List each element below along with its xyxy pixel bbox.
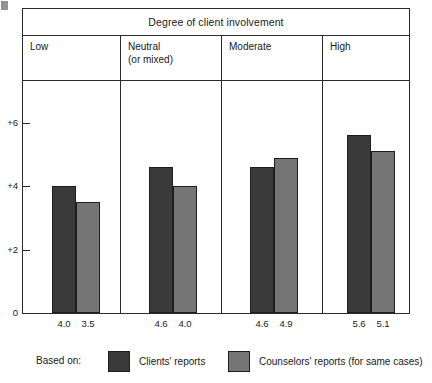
plot-area: 0 +2 +4 +6 4.0 3.5 4.6 4.0 4.6 4.9 5.6 5…: [22, 78, 410, 314]
group-divider-2: [221, 52, 222, 313]
category-label-line1: Moderate: [229, 41, 322, 54]
category-cell-high: High: [323, 36, 409, 80]
y-tick-label: +2: [7, 244, 18, 255]
plot-right-border: [409, 52, 410, 313]
bar-moderate-clients: [250, 167, 274, 313]
value-label: 4.6: [149, 318, 173, 329]
bar-neutral-counselors: [173, 186, 197, 313]
chart-title-row: Degree of client involvement: [23, 9, 409, 36]
bar-moderate-counselors: [274, 158, 298, 313]
bar-high-counselors: [371, 151, 395, 313]
category-header-row: Low Neutral (or mixed) Moderate High: [23, 36, 409, 80]
value-label: 4.9: [274, 318, 298, 329]
bar-high-clients: [347, 135, 371, 313]
value-label: 5.6: [347, 318, 371, 329]
bar-neutral-clients: [149, 167, 173, 313]
group-divider-1: [120, 52, 121, 313]
y-tick-0: 0: [22, 313, 30, 314]
category-label-line1: High: [330, 41, 409, 54]
legend-label-clients: Clients' reports: [139, 356, 205, 367]
category-cell-low: Low: [23, 36, 121, 80]
category-cell-moderate: Moderate: [222, 36, 323, 80]
category-label-line1: Neutral: [128, 41, 221, 54]
category-label-line2: (or mixed): [128, 54, 221, 67]
value-label: 5.1: [371, 318, 395, 329]
value-label: 4.0: [52, 318, 76, 329]
y-tick-label: 0: [13, 307, 18, 318]
value-label: 4.0: [173, 318, 197, 329]
y-axis-line: [22, 52, 23, 313]
x-axis-baseline: [22, 313, 410, 314]
legend-label-counselors: Counselors' reports (for same cases): [259, 356, 423, 367]
y-tick-2: +2: [22, 250, 30, 251]
y-tick-6: +6: [22, 123, 30, 124]
chart-legend: Based on: Clients' reports Counselors' r…: [22, 350, 422, 376]
bar-low-clients: [52, 186, 76, 313]
value-label: 3.5: [76, 318, 100, 329]
scan-artifact: [1, 1, 8, 10]
bar-low-counselors: [76, 202, 100, 313]
y-tick-label: +4: [7, 180, 18, 191]
legend-swatch-clients: [108, 351, 130, 372]
category-header-table: Degree of client involvement Low Neutral…: [22, 8, 410, 81]
group-divider-3: [322, 52, 323, 313]
chart-title: Degree of client involvement: [148, 16, 283, 28]
y-tick-label: +6: [7, 117, 18, 128]
category-label-line1: Low: [30, 41, 120, 54]
category-cell-neutral: Neutral (or mixed): [121, 36, 222, 80]
y-tick-4: +4: [22, 186, 30, 187]
legend-swatch-counselors: [228, 351, 250, 372]
legend-intro-label: Based on:: [36, 355, 81, 366]
value-label: 4.6: [250, 318, 274, 329]
